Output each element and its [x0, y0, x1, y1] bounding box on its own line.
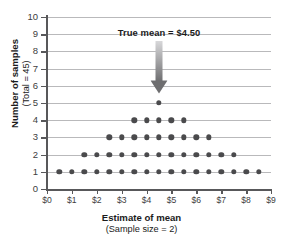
data-dot	[181, 152, 186, 157]
x-axis-tick	[221, 189, 222, 194]
x-axis-tick-label: $3	[117, 196, 127, 205]
x-axis-title-main: Estimate of mean	[0, 212, 283, 224]
data-dot	[107, 135, 112, 140]
x-axis-tick	[147, 189, 148, 194]
data-dot	[69, 169, 74, 174]
data-dot	[206, 152, 211, 157]
y-axis-tick	[41, 34, 46, 35]
true-mean-arrow-icon	[151, 41, 168, 93]
data-dot	[243, 169, 248, 174]
data-dot	[194, 169, 199, 174]
x-axis-tick-label: $8	[241, 196, 251, 205]
true-mean-annotation-label: True mean = $4.50	[118, 28, 201, 37]
x-axis-tick-label: $1	[67, 196, 77, 205]
data-dot	[156, 152, 161, 157]
data-dot	[169, 117, 174, 122]
data-dot	[156, 169, 161, 174]
data-dot	[82, 169, 87, 174]
x-axis-tick-label: $0	[42, 196, 52, 205]
x-axis-tick-label: $7	[216, 196, 226, 205]
data-dot	[169, 152, 174, 157]
x-axis-line	[46, 189, 272, 191]
data-dot	[181, 135, 186, 140]
y-axis-tick	[41, 86, 46, 87]
data-dot	[156, 135, 161, 140]
y-axis-tick-label: 1	[18, 167, 38, 177]
x-axis-title-sub: (Sample size = 2)	[0, 224, 283, 236]
data-dot	[194, 152, 199, 157]
x-axis-tick	[72, 189, 73, 194]
data-dot	[57, 169, 62, 174]
data-dot	[107, 169, 112, 174]
y-axis-tick	[41, 69, 46, 70]
data-dot	[131, 117, 136, 122]
data-dot	[119, 169, 124, 174]
y-axis-title-sub: (Total = 45)	[20, 22, 31, 144]
data-dot	[194, 135, 199, 140]
x-axis-tick	[97, 189, 98, 194]
data-dot	[107, 152, 112, 157]
data-dot	[82, 152, 87, 157]
y-axis-tick	[41, 172, 46, 173]
data-dot	[231, 169, 236, 174]
data-dot	[169, 135, 174, 140]
data-dot	[94, 152, 99, 157]
y-axis-tick-label: 0	[18, 184, 38, 194]
y-axis-title: Number of samples (Total = 45)	[9, 22, 32, 144]
data-dot	[156, 117, 161, 122]
x-axis-tick	[271, 189, 272, 194]
data-dot	[181, 117, 186, 122]
gridline	[47, 17, 271, 18]
y-axis-tick	[41, 120, 46, 121]
data-dot	[144, 135, 149, 140]
y-axis-tick	[41, 155, 46, 156]
data-dot	[94, 169, 99, 174]
x-axis-tick-label: $5	[167, 196, 177, 205]
dot-plot-figure: 012345678910 $0$1$2$3$4$5$6$7$8$9 True m…	[0, 0, 283, 247]
data-dot	[256, 169, 261, 174]
data-dot	[231, 152, 236, 157]
y-axis-tick	[41, 17, 46, 18]
x-axis-tick-label: $2	[92, 196, 102, 205]
x-axis-tick-label: $6	[192, 196, 202, 205]
y-axis-tick-label: 2	[18, 150, 38, 160]
x-axis-tick	[171, 189, 172, 194]
y-axis-tick-label: 10	[18, 12, 38, 22]
x-axis-tick	[122, 189, 123, 194]
x-axis-tick-label: $9	[266, 196, 276, 205]
y-axis-line	[46, 15, 48, 191]
data-dot	[219, 152, 224, 157]
data-dot	[119, 135, 124, 140]
data-dot	[144, 169, 149, 174]
y-axis-tick	[41, 189, 46, 190]
data-dot	[119, 152, 124, 157]
data-dot	[144, 152, 149, 157]
data-dot	[181, 169, 186, 174]
y-axis-tick	[41, 51, 46, 52]
x-axis-title: Estimate of mean (Sample size = 2)	[0, 212, 283, 236]
data-dot	[219, 169, 224, 174]
data-dot	[131, 169, 136, 174]
data-dot	[206, 135, 211, 140]
data-dot	[169, 169, 174, 174]
x-axis-tick	[196, 189, 197, 194]
y-axis-title-main: Number of samples	[9, 22, 21, 144]
y-axis-tick	[41, 137, 46, 138]
data-dot	[131, 135, 136, 140]
x-axis-tick	[246, 189, 247, 194]
x-axis-tick	[47, 189, 48, 194]
x-axis-tick-label: $4	[142, 196, 152, 205]
data-dot	[131, 152, 136, 157]
data-dot	[206, 169, 211, 174]
data-dot	[144, 117, 149, 122]
data-dot	[156, 100, 161, 105]
y-axis-tick	[41, 103, 46, 104]
